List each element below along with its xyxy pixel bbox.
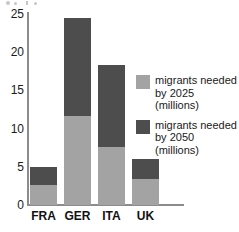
bar-fra: [30, 167, 57, 205]
bar-fra-segment-2050: [30, 167, 57, 185]
x-axis-label-fra: FRA: [30, 210, 57, 222]
bar-ita-segment-2025: [98, 147, 125, 205]
legend-item-2025: migrants needed by 2025 (millions): [136, 74, 239, 112]
bar-ger: [64, 18, 91, 205]
legend: migrants needed by 2025 (millions) migra…: [136, 74, 239, 163]
legend-swatch-2050: [136, 120, 150, 134]
bar-ger-segment-2050: [64, 18, 91, 116]
bar-ita-segment-2050: [98, 65, 125, 147]
y-tick-label-15: 15: [11, 84, 24, 96]
y-tick-label-0: 0: [17, 199, 24, 211]
bar-ger-segment-2025: [64, 116, 91, 205]
bar-uk: [132, 159, 159, 205]
y-tick-label-25: 25: [11, 8, 24, 20]
x-axis-label-ger: GER: [64, 210, 91, 222]
stacked-bar-chart: 0510152025 FRA GER ITA UK migrants neede…: [0, 0, 239, 232]
y-tick-label-5: 5: [17, 161, 24, 173]
bar-fra-segment-2025: [30, 185, 57, 205]
legend-label-2050: migrants needed by 2050 (millions): [155, 119, 239, 157]
y-tick-label-10: 10: [11, 123, 24, 135]
bar-ita: [98, 65, 125, 205]
x-axis-label-uk: UK: [132, 210, 159, 222]
scan-artifact: [4, 0, 74, 5]
legend-label-2025: migrants needed by 2025 (millions): [155, 74, 239, 112]
legend-item-2050: migrants needed by 2050 (millions): [136, 119, 239, 157]
y-tick-label-20: 20: [11, 46, 24, 58]
bar-uk-segment-2025: [132, 179, 159, 205]
legend-swatch-2025: [136, 75, 150, 89]
x-axis-label-ita: ITA: [98, 210, 125, 222]
